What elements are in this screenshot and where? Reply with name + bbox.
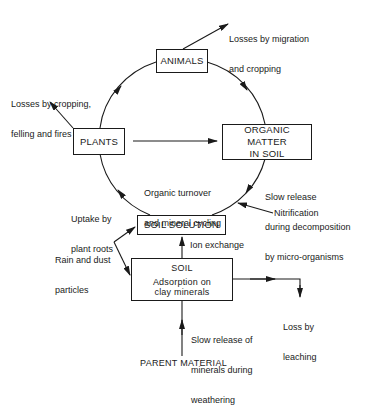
organic-matter-box: ORGANIC MATTER IN SOIL [222, 124, 312, 160]
soil-line2: clay minerals [154, 287, 209, 297]
soil-line1: Adsorption on [153, 277, 211, 287]
soil-box: SOIL Adsorption on clay minerals [131, 258, 233, 301]
ion-exchange-label: Ion exchange [190, 240, 244, 250]
organic-turnover-label: Organic turnover and mineral cycling [144, 168, 221, 238]
organic-matter-line1: ORGANIC MATTER [223, 124, 311, 148]
organic-matter-line2: IN SOIL [249, 148, 284, 160]
animals-label: ANIMALS [160, 55, 203, 67]
nitrification-label: Nitrification [274, 208, 319, 218]
rain-dust-label: Rain and dust particles [55, 235, 111, 305]
losses-cropping-label: Losses by cropping, felling and fires [11, 79, 91, 149]
arc-plants-to-animals [100, 62, 156, 128]
animals-box: ANIMALS [156, 49, 208, 73]
parent-material-label: PARENT MATERIAL [140, 358, 227, 368]
soil-title: SOIL [171, 263, 192, 273]
slow-release-decomposition-label: Slow release during decomposition by mic… [265, 172, 351, 272]
losses-migration-label: Losses by migration and cropping [229, 14, 309, 84]
loss-leaching-label: Loss by leaching [283, 302, 317, 372]
